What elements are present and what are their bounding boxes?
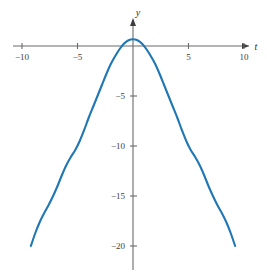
x-tick-label: −5: [73, 52, 83, 62]
y-tick-label: −10: [111, 141, 126, 151]
y-tick-label: −15: [111, 191, 126, 201]
chart-container: t y −10−5510 −5−10−15−20: [0, 0, 267, 277]
y-axis-arrowhead: [130, 18, 136, 26]
y-tick-label: −5: [115, 91, 125, 101]
x-tick-label: 10: [240, 52, 250, 62]
y-axis-label: y: [135, 7, 141, 18]
x-axis-arrowhead: [242, 43, 249, 49]
x-tick-label: −10: [15, 52, 30, 62]
function-graph: t y −10−5510 −5−10−15−20: [0, 0, 267, 277]
x-axis-label: t: [255, 41, 258, 52]
x-tick-label: 5: [186, 52, 191, 62]
x-axis: t: [13, 41, 258, 52]
y-tick-label: −20: [111, 241, 126, 251]
